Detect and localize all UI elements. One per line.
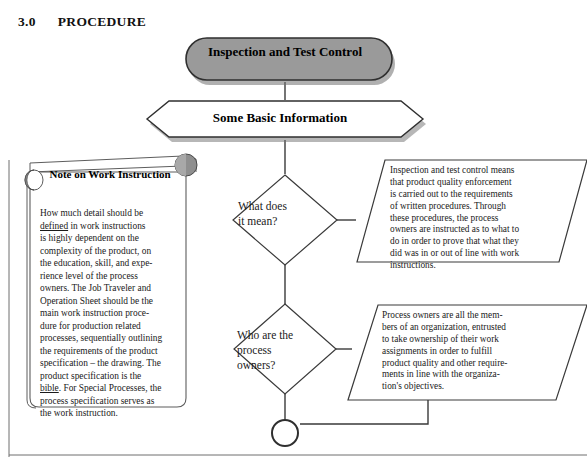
- note-line: product specification is the: [40, 370, 172, 383]
- note-line: owners. The Job Traveler and: [40, 282, 172, 295]
- note-line: is highly dependent on the: [40, 232, 172, 245]
- answer2-text: Process owners are all the mem- bers of …: [382, 310, 558, 393]
- answer1-line: did was in or out of line with work: [390, 248, 570, 260]
- note-line: process specification serves as: [40, 395, 172, 408]
- note-line: rience level of the process: [40, 270, 172, 283]
- note-line: complexity of the product, on: [40, 245, 172, 258]
- note-line: How much detail should be: [40, 207, 172, 220]
- answer1-text: Inspection and test control means that p…: [390, 165, 570, 272]
- answer2-line: to take ownership of their work: [382, 334, 558, 346]
- decision2-line: Who are the: [237, 328, 329, 343]
- answer2-line: bers of an organization, entrusted: [382, 322, 558, 334]
- answer2-line: assignments in order to fulfill: [382, 346, 558, 358]
- note-line: bible. For Special Processes, the: [40, 382, 172, 395]
- answer2-line: product quality and other require-: [382, 358, 558, 370]
- answer1-line: instructions.: [390, 260, 570, 272]
- decision2-line: owners?: [237, 358, 329, 373]
- note-line: Operation Sheet should be the: [40, 295, 172, 308]
- answer2-line: Process owners are all the mem-: [382, 310, 558, 322]
- note-line: the requirements of the product: [40, 345, 172, 358]
- note-line: main work instruction proce-: [40, 307, 172, 320]
- title-box-label: Inspection and Test Control: [183, 44, 387, 59]
- note-emphasis-defined: defined: [40, 221, 68, 231]
- answer2-line: ments in line with the organiza-: [382, 369, 558, 381]
- note-line: processes, sequentially outlining: [40, 332, 172, 345]
- note-line: the work instruction.: [40, 407, 172, 420]
- answer1-line: of written procedures. Through: [390, 201, 570, 213]
- note-line: the education, skill, and expe-: [40, 257, 172, 270]
- note-body-text: How much detail should be defined in wor…: [40, 207, 172, 420]
- note-title: Note on Work Instruction: [34, 168, 186, 180]
- decision1-line: it mean?: [238, 214, 330, 229]
- answer1-line: Inspection and test control means: [390, 165, 570, 177]
- answer1-line: owners are instructed as to what to: [390, 224, 570, 236]
- connector-circle-shape: [272, 420, 298, 446]
- note-line: dure for production related: [40, 320, 172, 333]
- note-line: specification – the drawing. The: [40, 357, 172, 370]
- note-emphasis-bible: bible: [40, 383, 59, 393]
- answer1-line: that product quality enforcement: [390, 177, 570, 189]
- answer1-line: do in order to prove that what they: [390, 236, 570, 248]
- note-line: defined in work instructions: [40, 220, 172, 233]
- answer2-line: tion's objectives.: [382, 381, 558, 393]
- decision1-label: What does it mean?: [238, 199, 330, 229]
- answer1-line: is carried out to the requirements: [390, 189, 570, 201]
- hexagon-label: Some Basic Information: [160, 110, 400, 125]
- flow-node-connector-circle[interactable]: [272, 420, 298, 446]
- decision2-label: Who are the process owners?: [237, 328, 329, 374]
- document-page: 3.0PROCEDURE: [0, 0, 587, 457]
- connector-answer2-to-circle: [300, 400, 428, 424]
- decision2-line: process: [237, 343, 329, 358]
- answer1-line: these procedures, the process: [390, 213, 570, 225]
- decision1-line: What does: [238, 199, 330, 214]
